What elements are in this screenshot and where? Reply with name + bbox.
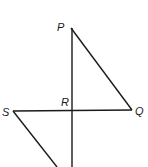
label-r: R [61, 96, 69, 108]
geometry-diagram: P Q R S [0, 0, 148, 167]
segment-pq [71, 28, 132, 110]
label-q: Q [135, 105, 144, 117]
label-p: P [57, 21, 65, 33]
segment-from-s-down [13, 111, 57, 167]
label-s: S [2, 106, 10, 118]
